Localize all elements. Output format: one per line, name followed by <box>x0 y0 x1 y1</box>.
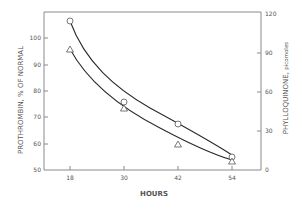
right-tick-label: 90 <box>265 49 273 56</box>
left-tick-label: 70 <box>33 113 41 120</box>
circle-series-markers <box>67 18 235 160</box>
x-axis-label: HOURS <box>140 190 168 198</box>
circle-series-curve <box>70 21 232 155</box>
left-tick-label: 100 <box>30 34 42 41</box>
y-axis-label: PROTHROMBIN, % OF NORMAL <box>17 46 25 154</box>
right-tick-label: 0 <box>265 166 269 173</box>
x-tick-label: 42 <box>174 174 182 181</box>
left-tick-label: 60 <box>33 140 41 147</box>
x-axis-ticks: 18 30 42 54 <box>66 166 236 181</box>
x-tick-label: 54 <box>228 174 236 181</box>
left-axis-ticks: 100 90 80 70 60 50 <box>30 34 48 173</box>
triangle-series-markers <box>67 46 236 164</box>
left-tick-label: 50 <box>33 166 41 173</box>
triangle-marker <box>67 46 74 52</box>
right-axis-ticks: 120 90 60 30 0 <box>257 10 277 173</box>
triangle-marker <box>175 141 182 147</box>
circle-marker <box>67 18 73 24</box>
x-tick-label: 18 <box>66 174 74 181</box>
right-tick-label: 60 <box>265 88 273 95</box>
right-tick-label: 120 <box>265 10 277 17</box>
right-tick-label: 30 <box>265 127 273 134</box>
left-tick-label: 90 <box>33 61 41 68</box>
chart: 100 90 80 70 60 50 120 90 60 30 0 18 30 … <box>0 0 302 209</box>
x-tick-label: 30 <box>120 174 128 181</box>
triangle-series-curve <box>70 49 232 160</box>
y2-axis-label-main: PHYLLOQUINONE, <box>282 72 290 134</box>
circle-marker <box>175 121 181 127</box>
y2-axis-label: PHYLLOQUINONE, picomoles <box>282 42 290 134</box>
circle-marker <box>121 99 127 105</box>
y2-axis-label-unit: picomoles <box>283 42 290 70</box>
left-tick-label: 80 <box>33 87 41 94</box>
